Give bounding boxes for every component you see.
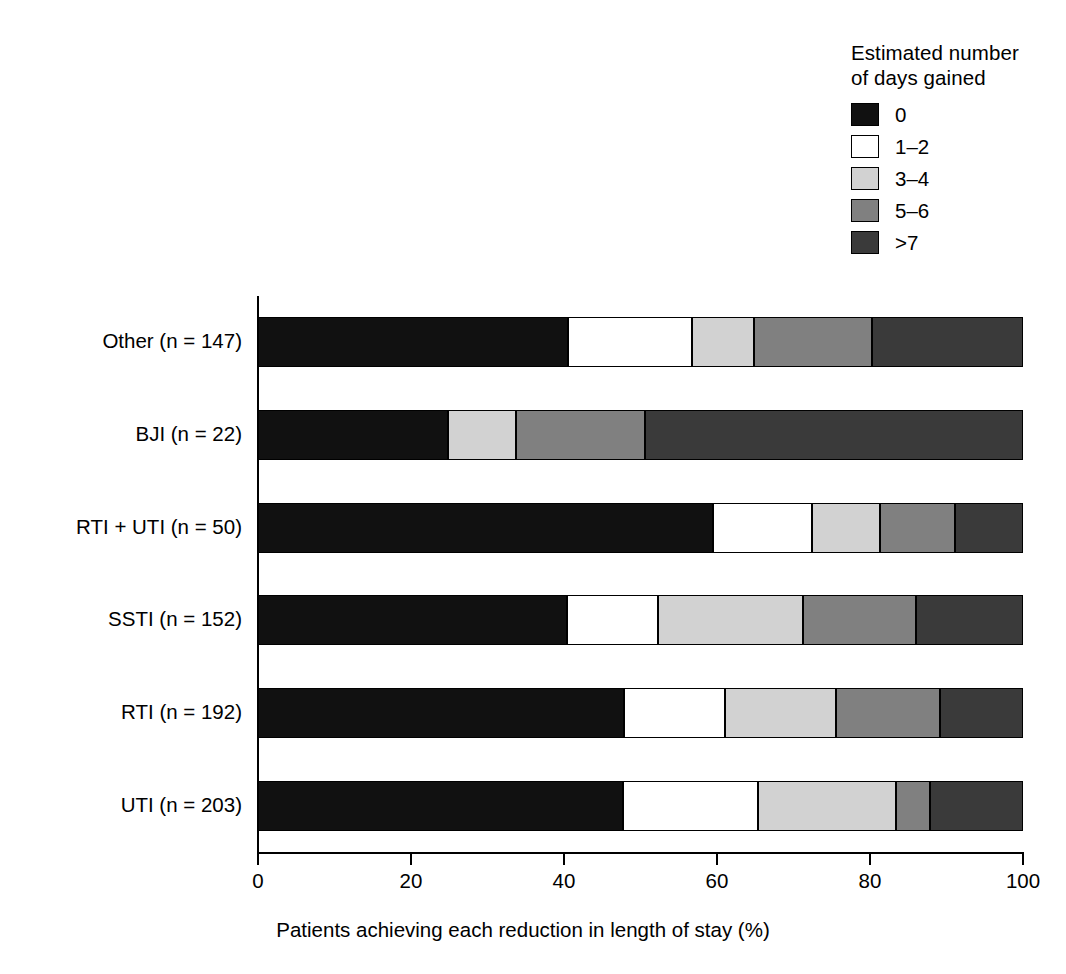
legend-item-3-4: 3–4 bbox=[851, 163, 1061, 193]
x-axis-title: Patients achieving each reduction in len… bbox=[0, 918, 1066, 942]
x-axis-title-text: Patients achieving each reduction in len… bbox=[276, 918, 769, 941]
bar-segment-gt7 bbox=[916, 595, 1023, 645]
bar-segment-5-6 bbox=[836, 688, 941, 738]
legend-label-3-4: 3–4 bbox=[895, 167, 929, 190]
legend-swatch-gt7-icon bbox=[851, 231, 879, 254]
chart-plot-area bbox=[258, 296, 1023, 852]
x-tick-60 bbox=[716, 854, 718, 865]
x-tick-80 bbox=[869, 854, 871, 865]
legend-swatch-5-6-icon bbox=[851, 199, 879, 222]
bar-segment-1-2 bbox=[623, 781, 758, 831]
bar-segment-5-6 bbox=[754, 317, 872, 367]
x-tick-40 bbox=[563, 854, 565, 865]
bar-segment-gt7 bbox=[872, 317, 1023, 367]
y-tick-label-5: RTI (n = 192) bbox=[121, 700, 242, 724]
bar-segment-0 bbox=[258, 410, 448, 460]
y-tick-label-2: BJI (n = 22) bbox=[135, 422, 242, 446]
y-tick-label-4: SSTI (n = 152) bbox=[108, 607, 242, 631]
legend-swatch-3-4-icon bbox=[851, 167, 879, 190]
bar-row-4 bbox=[258, 595, 1023, 645]
legend-swatch-1-2-icon bbox=[851, 135, 879, 158]
x-tick-100 bbox=[1022, 854, 1024, 865]
x-axis-line bbox=[257, 852, 1024, 854]
bar-segment-1-2 bbox=[568, 317, 692, 367]
bar-row-2 bbox=[258, 410, 1023, 460]
bar-row-1 bbox=[258, 317, 1023, 367]
y-tick-label-1: Other (n = 147) bbox=[102, 329, 242, 353]
x-tick-label-40: 40 bbox=[553, 869, 576, 893]
legend-item-gt7: >7 bbox=[851, 227, 1061, 257]
y-tick-label-3: RTI + UTI (n = 50) bbox=[76, 515, 242, 539]
bar-segment-3-4 bbox=[448, 410, 516, 460]
bar-segment-0 bbox=[258, 688, 624, 738]
bar-segment-0 bbox=[258, 317, 568, 367]
bar-segment-3-4 bbox=[758, 781, 896, 831]
bar-segment-gt7 bbox=[955, 503, 1023, 553]
x-tick-label-0: 0 bbox=[252, 869, 263, 893]
x-tick-0 bbox=[257, 854, 259, 865]
bar-segment-3-4 bbox=[692, 317, 755, 367]
legend-label-5-6: 5–6 bbox=[895, 199, 929, 222]
bar-segment-0 bbox=[258, 595, 567, 645]
bar-segment-0 bbox=[258, 781, 623, 831]
x-tick-20 bbox=[410, 854, 412, 865]
bar-segment-gt7 bbox=[930, 781, 1023, 831]
legend-label-1-2: 1–2 bbox=[895, 135, 929, 158]
legend-title: Estimated number of days gained bbox=[851, 40, 1061, 90]
x-tick-label-80: 80 bbox=[859, 869, 882, 893]
legend-swatch-0-icon bbox=[851, 103, 879, 126]
bar-row-6 bbox=[258, 781, 1023, 831]
bar-segment-3-4 bbox=[658, 595, 803, 645]
bar-segment-gt7 bbox=[645, 410, 1023, 460]
legend-item-0: 0 bbox=[851, 99, 1061, 129]
bar-segment-5-6 bbox=[803, 595, 916, 645]
y-axis-labels: Other (n = 147)BJI (n = 22)RTI + UTI (n … bbox=[0, 296, 242, 852]
legend: Estimated number of days gained 0 1–2 3–… bbox=[851, 40, 1061, 259]
bar-segment-3-4 bbox=[725, 688, 836, 738]
bar-segment-5-6 bbox=[880, 503, 955, 553]
x-tick-label-60: 60 bbox=[706, 869, 729, 893]
bar-row-3 bbox=[258, 503, 1023, 553]
x-tick-label-100: 100 bbox=[1006, 869, 1040, 893]
bar-row-5 bbox=[258, 688, 1023, 738]
bar-segment-5-6 bbox=[896, 781, 930, 831]
legend-label-gt7: >7 bbox=[895, 231, 918, 254]
bar-segment-0 bbox=[258, 503, 713, 553]
y-tick-label-6: UTI (n = 203) bbox=[121, 793, 242, 817]
legend-item-5-6: 5–6 bbox=[851, 195, 1061, 225]
bar-segment-1-2 bbox=[567, 595, 658, 645]
bar-segment-gt7 bbox=[940, 688, 1023, 738]
x-tick-label-20: 20 bbox=[400, 869, 423, 893]
legend-label-0: 0 bbox=[895, 103, 906, 126]
legend-item-1-2: 1–2 bbox=[851, 131, 1061, 161]
bar-segment-1-2 bbox=[713, 503, 812, 553]
bar-segment-1-2 bbox=[624, 688, 725, 738]
bar-segment-5-6 bbox=[516, 410, 645, 460]
bar-segment-3-4 bbox=[812, 503, 880, 553]
